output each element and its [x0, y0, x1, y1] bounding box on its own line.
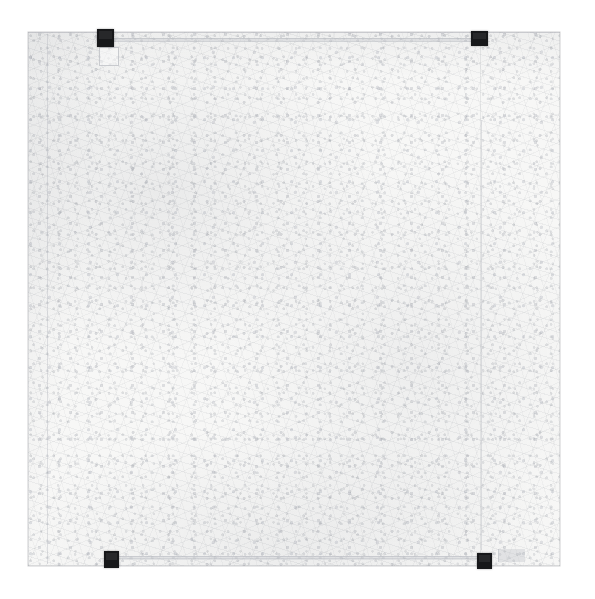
guide-line-left-margin — [47, 34, 48, 564]
sheet-edge-left — [28, 32, 29, 566]
corner-marker-bottom-left — [104, 551, 119, 568]
right-vertical-trace — [481, 120, 482, 550]
top-rule-band — [113, 38, 473, 42]
sheet-edge-right — [559, 32, 560, 566]
ghost-square-mark — [99, 47, 119, 66]
corner-marker-bottom-right — [477, 553, 492, 569]
bottom-rule-band — [118, 556, 478, 560]
faint-gray-mark — [498, 549, 525, 562]
corner-marker-top-right — [471, 31, 488, 46]
artwork-canvas: Near-blank white textured sheet with fou… — [0, 0, 595, 599]
corner-marker-top-left — [97, 29, 114, 47]
